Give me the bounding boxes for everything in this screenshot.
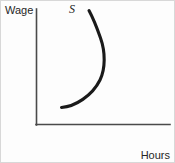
x-axis-label: Hours of Work per Week [123, 127, 170, 163]
curve-label-s: S [69, 2, 75, 17]
chart-figure: Wage S Hours of Work per Week [0, 0, 175, 163]
x-axis-label-line-1: Hours [123, 150, 170, 162]
supply-curve-path [62, 11, 105, 108]
data-series-group [62, 11, 105, 108]
y-axis-label: Wage [5, 5, 33, 17]
